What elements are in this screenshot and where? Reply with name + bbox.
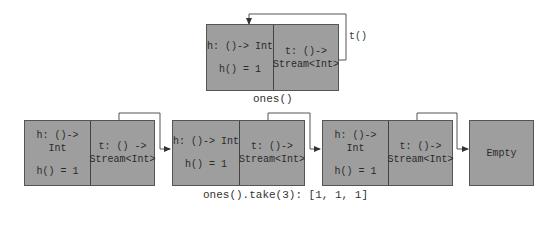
tail-cell: t: ()-> Stream<Int>	[389, 121, 452, 185]
take-caption: ones().take(3): [1, 1, 1]	[203, 189, 368, 201]
empty-node: Empty	[469, 120, 534, 186]
head-label: h: ()-> Int	[25, 129, 90, 155]
stream-node-2: h: ()-> Int h() = 1 t: ()-> Stream<Int>	[172, 120, 305, 186]
head-label: h: ()-> Int	[323, 129, 388, 155]
tail-type: Stream<Int>	[388, 153, 454, 166]
tail-type: Stream<Int>	[273, 58, 339, 71]
stream-node-ones: h: ()-> Int h() = 1 t: ()-> Stream<Int>	[206, 24, 339, 91]
head-value: h() = 1	[219, 63, 261, 76]
stream-node-3: h: ()-> Int h() = 1 t: ()-> Stream<Int>	[322, 120, 453, 186]
empty-label: Empty	[470, 121, 533, 185]
head-cell: h: ()-> Int h() = 1	[207, 25, 273, 90]
tail-cell: t: ()-> Stream<Int>	[274, 25, 338, 90]
head-cell: h: ()-> Int h() = 1	[25, 121, 90, 185]
head-value: h() = 1	[36, 165, 78, 178]
tail-cell: t: ()-> Stream<Int>	[240, 121, 304, 185]
head-cell: h: ()-> Int h() = 1	[323, 121, 388, 185]
tail-label: t: () ->	[98, 140, 146, 153]
head-cell: h: ()-> Int h() = 1	[173, 121, 239, 185]
tail-type: Stream<Int>	[239, 153, 305, 166]
empty-text: Empty	[486, 147, 516, 160]
tail-label: t: ()->	[399, 140, 441, 153]
tail-label: t: ()->	[251, 140, 293, 153]
loop-label: t()	[349, 31, 367, 42]
head-value: h() = 1	[334, 165, 376, 178]
head-value: h() = 1	[185, 158, 227, 171]
head-label: h: ()-> Int	[173, 135, 239, 148]
ones-caption: ones()	[253, 93, 293, 105]
tail-type: Stream<Int>	[90, 153, 156, 166]
tail-cell: t: () -> Stream<Int>	[91, 121, 154, 185]
stream-node-1: h: ()-> Int h() = 1 t: () -> Stream<Int>	[24, 120, 155, 186]
tail-label: t: ()->	[285, 45, 327, 58]
head-label: h: ()-> Int	[207, 40, 273, 53]
